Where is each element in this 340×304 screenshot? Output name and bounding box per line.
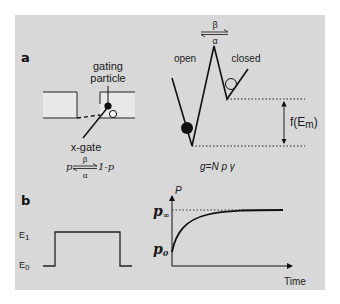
equation-left: p: [66, 161, 73, 172]
energy-landscape: [172, 30, 305, 147]
x-gate-arm: [83, 107, 108, 138]
x-axis-label: Time: [284, 276, 306, 287]
panel-label-a: a: [21, 50, 30, 65]
barrier-alpha: α: [212, 36, 217, 46]
barrier-beta: β: [212, 20, 217, 30]
x-gate-label: x-gate: [71, 141, 102, 153]
closed-state-ball: [226, 79, 237, 90]
open-state-ball: [181, 122, 193, 134]
gating-particle-open: [109, 110, 116, 117]
closed-state-label: closed: [232, 53, 261, 64]
gating-label-line2: particle: [90, 72, 125, 84]
p-zero-label: p0: [153, 241, 169, 258]
open-state-label: open: [174, 53, 196, 64]
voltage-step-trace: [43, 232, 132, 266]
conductance-equation: g=N p γ: [200, 161, 236, 172]
e1-label: E1: [19, 230, 30, 242]
equation-alpha: α: [83, 171, 88, 180]
gating-label-line1: gating: [93, 60, 123, 72]
membrane-left-block: [43, 92, 77, 118]
e0-label: E0: [19, 260, 30, 272]
panel-label-b: b: [21, 193, 30, 208]
equation-right: 1-p: [98, 161, 115, 172]
equation-beta: β: [83, 155, 88, 164]
probability-plot: [172, 196, 292, 266]
membrane-channel: [43, 86, 135, 138]
p-infinity-label: p∞: [153, 203, 169, 220]
probability-curve: [172, 210, 283, 252]
gating-particle-filled: [104, 102, 111, 109]
y-axis-label: P: [175, 185, 182, 196]
diagram-canvas: a b gating particle x-gate p β α 1-p: [0, 0, 340, 304]
gate-closed-dashed-line: [77, 115, 100, 118]
reaction-equation: p β α 1-p: [66, 155, 115, 180]
energy-difference-label: f(Em): [290, 115, 318, 130]
